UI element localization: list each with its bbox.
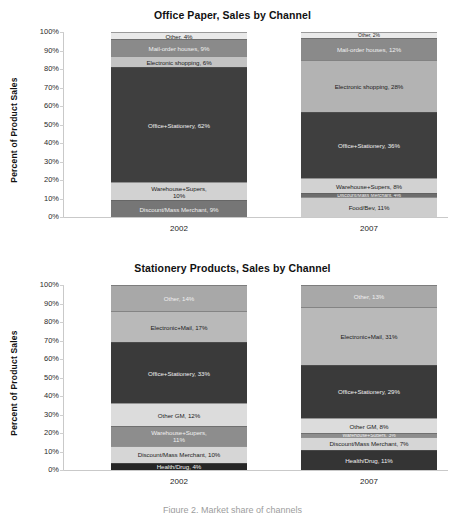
y-tick-label: 70% [29,337,59,345]
bar-segment-label: Discount/Mass Merchant, 9% [137,206,220,213]
y-tick-label: 10% [29,195,59,203]
y-tick-mark [60,304,64,305]
bar-segment: Other, 2% [301,32,437,38]
bar-segment: Electronic+Mail, 31% [301,307,437,364]
x-axis-line [63,217,448,218]
y-tick-label: 90% [29,300,59,308]
bar-segment-label: Other GM, 8% [348,423,391,430]
bar-segment: Other, 14% [111,285,247,311]
bar-segment: Office+Stationery, 36% [301,112,437,179]
y-tick-label: 20% [29,429,59,437]
bar-segment-label: Health/Drug, 11% [343,457,395,464]
y-tick-label: 60% [29,355,59,363]
bar-segment-label: Electronic+Mail, 31% [339,333,400,340]
y-tick-mark [60,69,64,70]
chart-office-paper: Office Paper, Sales by Channel Percent o… [0,0,465,253]
y-tick-mark [60,359,64,360]
bar-segment-label: Discount/Mass Merchant, 10% [136,451,223,458]
y-tick-label: 80% [29,318,59,326]
bar-segment: Discount/Mass Merchant, 9% [111,200,247,217]
y-tick-mark [60,396,64,397]
y-tick-mark [60,452,64,453]
bar-segment-label: Warehouse+Supers, 10% [149,185,209,199]
y-tick-mark [60,415,64,416]
bar-segment-label: Warehouse+Supers, 3% [340,433,397,437]
bar-segment-label: Mail-order houses, 9% [147,45,212,52]
y-tick-label: 50% [29,374,59,382]
y-tick-mark [60,341,64,342]
x-tick-label-2002: 2002 [111,224,247,233]
x-tick-label-2007: 2007 [301,477,437,486]
y-tick-label: 100% [29,28,59,36]
y-tick-label: 30% [29,411,59,419]
bar-segment: Health/Drug, 4% [111,463,247,470]
y-tick-mark [60,322,64,323]
y-tick-label: 10% [29,448,59,456]
y-tick-label: 70% [29,84,59,92]
bar-segment: Health/Drug, 11% [301,450,437,470]
bar-segment: Food/Bev, 11% [301,197,437,217]
bar-segment: Other GM, 12% [111,403,247,425]
bar-segment: Electronic shopping, 28% [301,60,437,112]
bar-segment-label: Discount/Mass Merchant, 4% [335,193,403,197]
bar-segment-label: Other, 14% [162,295,196,302]
y-tick-label: 40% [29,392,59,400]
bar-segment-label: Office+Stationery, 36% [336,142,402,149]
bar-segment-label: Electronic shopping, 6% [144,59,213,66]
y-tick-mark [60,180,64,181]
bar-segment: Other GM, 8% [301,418,437,433]
bar-2007: Food/Bev, 11%Discount/Mass Merchant, 4%W… [301,32,437,217]
bar-segment-label: Other GM, 12% [156,412,202,419]
x-tick-label-2007: 2007 [301,224,437,233]
bar-segment: Discount/Mass Merchant, 7% [301,437,437,450]
bar-segment-label: Other, 4% [163,33,194,40]
bar-segment: Office+Stationery, 33% [111,342,247,403]
figure-caption-text: Figure 2. Market share of channels [0,505,465,513]
y-axis-title: Percent of Product Sales [9,45,19,215]
y-tick-label: 80% [29,65,59,73]
bar-segment-label: Electronic shopping, 28% [333,83,406,90]
bar-segment-label: Health/Drug, 4% [155,463,204,470]
bar-segment: Warehouse+Supers, 11% [111,426,247,446]
y-tick-mark [60,88,64,89]
chart-stationery-products: Stationery Products, Sales by Channel Pe… [0,253,465,511]
y-tick-mark [60,378,64,379]
bar-segment-label: Discount/Mass Merchant, 7% [327,440,410,447]
bar-2002: Health/Drug, 4%Discount/Mass Merchant, 1… [111,285,247,470]
bar-segment-label: Office+Stationery, 62% [146,122,212,129]
plot-area-2: Percent of Product Sales 0%10%20%30%40%5… [63,285,448,470]
y-tick-mark [60,470,64,471]
y-tick-mark [60,285,64,286]
y-tick-label: 20% [29,176,59,184]
bar-segment-label: Office+Stationery, 33% [146,370,212,377]
y-tick-label: 0% [29,213,59,221]
chart-title: Stationery Products, Sales by Channel [0,262,465,274]
y-tick-label: 50% [29,121,59,129]
y-tick-mark [60,143,64,144]
bar-segment: Warehouse+Supers, 10% [111,182,247,201]
y-tick-mark [60,199,64,200]
bar-segment: Electronic shopping, 6% [111,56,247,67]
y-tick-label: 0% [29,466,59,474]
bar-segment-label: Food/Bev, 11% [347,204,392,211]
bar-segment-label: Warehouse+Supers, 11% [149,429,209,443]
bar-segment: Warehouse+Supers, 8% [301,178,437,193]
y-tick-label: 60% [29,102,59,110]
bar-2002: Discount/Mass Merchant, 9%Warehouse+Supe… [111,32,247,217]
y-tick-label: 100% [29,281,59,289]
bar-segment-label: Office+Stationery, 29% [336,388,402,395]
bar-2007: Health/Drug, 11%Discount/Mass Merchant, … [301,285,437,470]
chart-title: Office Paper, Sales by Channel [0,9,465,21]
bar-segment-label: Other, 2% [356,33,382,38]
y-tick-mark [60,433,64,434]
y-tick-label: 40% [29,139,59,147]
y-tick-mark [60,162,64,163]
bar-segment: Other, 13% [301,285,437,307]
y-axis-title: Percent of Product Sales [9,298,19,468]
bar-segment: Warehouse+Supers, 3% [301,433,437,437]
bar-segment-label: Warehouse+Supers, 8% [334,183,404,190]
bar-segment: Other, 4% [111,32,247,39]
y-tick-label: 90% [29,47,59,55]
x-tick-label-2002: 2002 [111,477,247,486]
bar-segment: Mail-order houses, 9% [111,39,247,56]
